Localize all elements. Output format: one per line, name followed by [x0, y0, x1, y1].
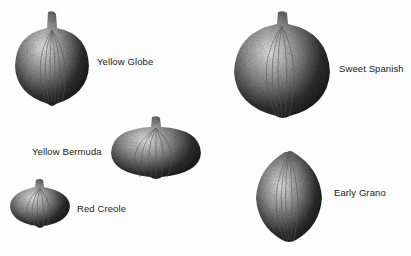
early-grano-label: Early Grano — [334, 187, 386, 198]
early-grano-onion-illustration — [254, 150, 324, 244]
yellow-globe-onion-illustration — [12, 10, 92, 108]
red-creole-onion-illustration — [9, 178, 71, 230]
yellow-bermuda-onion-illustration — [110, 115, 202, 181]
red-creole-label: Red Creole — [77, 203, 126, 214]
yellow-bermuda-label: Yellow Bermuda — [32, 146, 102, 157]
yellow-globe-label: Yellow Globe — [97, 56, 153, 67]
sweet-spanish-label: Sweet Spanish — [339, 63, 404, 74]
sweet-spanish-onion-illustration — [232, 10, 332, 120]
